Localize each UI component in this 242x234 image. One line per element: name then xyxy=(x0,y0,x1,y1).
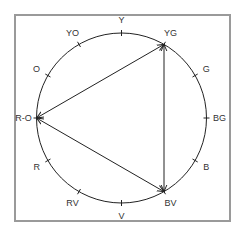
hue-label-bg: BG xyxy=(213,113,226,123)
tick-g xyxy=(193,74,198,77)
tick-o xyxy=(45,74,50,77)
tick-yo xyxy=(78,42,81,47)
hue-label-y: Y xyxy=(118,15,124,25)
diagram-frame xyxy=(15,15,230,221)
hue-label-rv: RV xyxy=(66,198,78,208)
hue-label-bv: BV xyxy=(164,198,176,208)
hue-ticks xyxy=(34,30,210,206)
hue-label-r: R xyxy=(33,162,40,172)
triad-arrows xyxy=(37,44,165,191)
arrow-bv-r-o xyxy=(37,118,165,192)
hue-label-yo: YO xyxy=(66,28,79,38)
hue-label-yg: YG xyxy=(164,28,177,38)
color-wheel-circle xyxy=(37,33,207,203)
hue-label-v: V xyxy=(118,211,124,221)
hue-labels: YYGGBGBBVVRVRR-OOYO xyxy=(15,15,226,221)
hue-label-r-o: R-O xyxy=(15,113,32,123)
tick-b xyxy=(193,159,198,162)
hue-label-g: G xyxy=(203,64,210,74)
arrow-r-o-yg xyxy=(37,44,165,118)
tick-r xyxy=(45,159,50,162)
color-wheel-diagram: YYGGBGBBVVRVRR-OOYO xyxy=(0,0,242,234)
tick-rv xyxy=(78,189,81,194)
hue-label-b: B xyxy=(203,162,209,172)
hue-label-o: O xyxy=(33,64,40,74)
